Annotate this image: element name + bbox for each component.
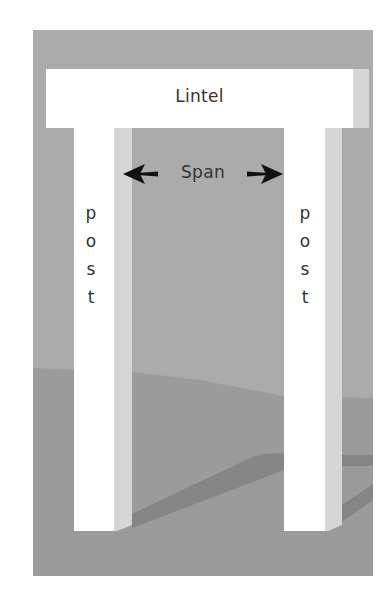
post-letter: t bbox=[302, 286, 309, 314]
lintel-side bbox=[353, 69, 369, 128]
right-post-front bbox=[284, 128, 325, 531]
post-letter: s bbox=[87, 258, 96, 286]
post-letter: p bbox=[86, 202, 97, 230]
post-letter: t bbox=[88, 286, 95, 314]
post-letter: p bbox=[300, 202, 311, 230]
left-post-front bbox=[74, 128, 114, 531]
right-post-side bbox=[325, 128, 342, 525]
right-post-label: p o s t bbox=[285, 202, 325, 314]
post-letter: o bbox=[86, 230, 96, 258]
post-letter: o bbox=[300, 230, 310, 258]
post-letter: s bbox=[301, 258, 310, 286]
right-post-shadow-upper bbox=[342, 455, 373, 466]
left-post-label: p o s t bbox=[71, 202, 111, 314]
span-label: Span bbox=[160, 162, 246, 182]
left-post-side bbox=[114, 128, 132, 525]
lintel-label: Lintel bbox=[46, 86, 353, 106]
